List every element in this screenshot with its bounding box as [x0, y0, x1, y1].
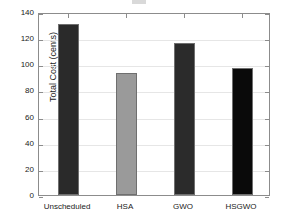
- title-artifact: [132, 0, 146, 4]
- y-tick-mark: [39, 92, 43, 93]
- figure-canvas: Total Cost (cents) 020406080100120140 Un…: [0, 0, 284, 224]
- x-tick-label: HSA: [117, 202, 133, 211]
- y-tick-label: 60: [4, 113, 34, 122]
- bar-hsa: [116, 73, 137, 195]
- x-tick-mark: [126, 14, 127, 18]
- y-tick-mark: [265, 171, 269, 172]
- y-tick-mark: [265, 145, 269, 146]
- y-tick-mark: [265, 92, 269, 93]
- x-tick-mark: [242, 14, 243, 18]
- y-tick-label: 20: [4, 165, 34, 174]
- y-tick-mark: [265, 197, 269, 198]
- y-tick-mark: [265, 66, 269, 67]
- y-tick-label: 100: [4, 60, 34, 69]
- x-tick-label: HSGWO: [225, 202, 256, 211]
- y-tick-mark: [265, 119, 269, 120]
- y-tick-mark: [39, 14, 43, 15]
- y-tick-label: 0: [4, 191, 34, 200]
- y-tick-mark: [39, 197, 43, 198]
- x-tick-mark: [184, 14, 185, 18]
- x-tick-mark: [68, 14, 69, 18]
- x-tick-label: Unscheduled: [44, 202, 91, 211]
- y-tick-label: 140: [4, 8, 34, 17]
- y-tick-mark: [39, 66, 43, 67]
- x-tick-label: GWO: [173, 202, 193, 211]
- y-tick-mark: [265, 40, 269, 41]
- y-tick-label: 40: [4, 139, 34, 148]
- plot-area: Total Cost (cents): [38, 13, 270, 196]
- y-tick-mark: [265, 14, 269, 15]
- y-tick-label: 120: [4, 34, 34, 43]
- bar-unscheduled: [58, 24, 79, 195]
- y-tick-mark: [39, 40, 43, 41]
- y-tick-label: 80: [4, 86, 34, 95]
- y-tick-mark: [39, 145, 43, 146]
- y-tick-mark: [39, 119, 43, 120]
- y-tick-mark: [39, 171, 43, 172]
- bar-gwo: [174, 43, 195, 195]
- bar-hsgwo: [232, 68, 253, 195]
